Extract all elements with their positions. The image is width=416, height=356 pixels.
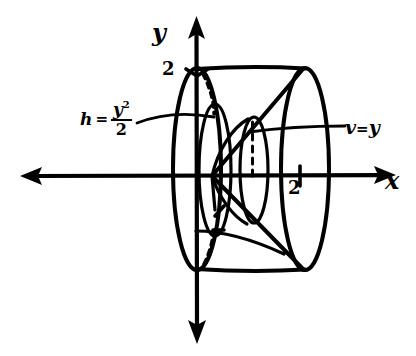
cylinder-right-face-ellipse	[281, 68, 329, 270]
height-fraction: y2 2	[111, 100, 132, 138]
figure-canvas	[0, 0, 416, 356]
radius-equals-sign: =	[356, 120, 369, 138]
radius-variable: v	[345, 116, 356, 138]
y-axis-tick-label-2: 2	[162, 58, 175, 79]
hand-drawn-math-diagram: y x 2 2 h = y2 2 v=y	[0, 0, 416, 356]
radius-value: y	[369, 116, 380, 138]
height-variable: h	[80, 109, 92, 129]
x-axis-label: x	[385, 166, 399, 195]
x-axis-tick-label-2: 2	[288, 177, 301, 198]
height-annotation: h = y2 2	[80, 100, 132, 138]
cylinder-top-edge	[196, 67, 305, 69]
height-numerator-var: y	[113, 99, 123, 119]
height-denominator: 2	[116, 121, 127, 138]
height-numerator: y2	[111, 100, 132, 119]
axis-group	[20, 16, 396, 344]
cylinder-bottom-edge	[196, 269, 305, 271]
radius-annotation: v=y	[345, 116, 380, 138]
height-equals-sign: =	[95, 110, 108, 128]
height-exponent: 2	[123, 99, 130, 110]
y-axis-label: y	[152, 18, 166, 47]
